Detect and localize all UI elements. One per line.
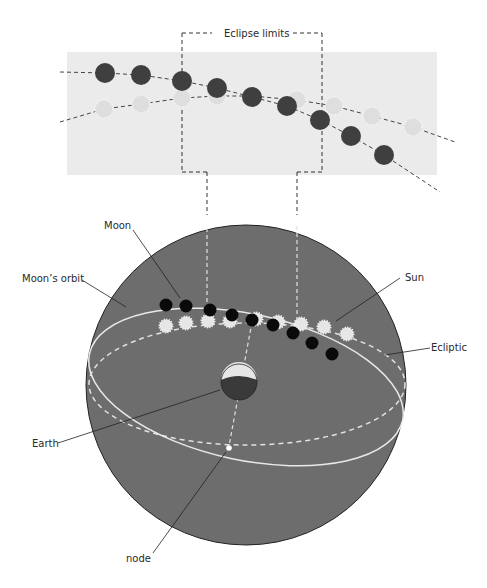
node-point	[226, 445, 232, 451]
sun-label: Sun	[405, 272, 424, 283]
eclipse-limits-label: Eclipse limits	[224, 28, 289, 39]
node-label: node	[126, 553, 151, 564]
moon-label: Moon	[104, 220, 131, 231]
moons-orbit-label: Moon’s orbit	[22, 273, 84, 284]
ecliptic-label: Ecliptic	[431, 342, 467, 353]
earth-label: Earth	[32, 438, 59, 449]
earth	[221, 362, 257, 400]
eclipse-diagram: Eclipse limits	[0, 0, 487, 588]
